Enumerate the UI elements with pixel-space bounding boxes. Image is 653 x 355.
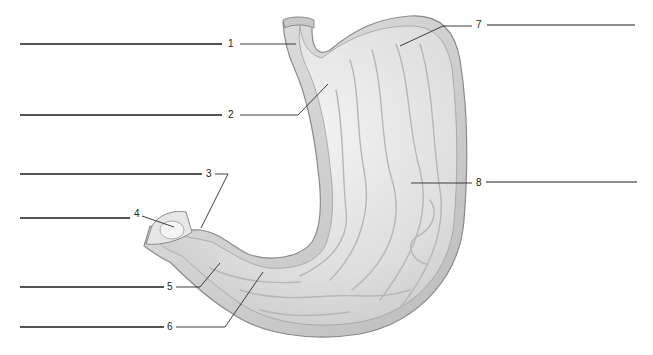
label-number-6: 6 (167, 321, 173, 332)
label-number-1: 1 (228, 38, 234, 49)
label-number-2: 2 (228, 109, 234, 120)
leader-line-3 (201, 174, 228, 228)
label-number-8: 8 (476, 177, 482, 188)
label-1: 1 (20, 38, 296, 49)
label-number-4: 4 (134, 208, 140, 219)
label-number-5: 5 (167, 281, 173, 292)
label-2: 2 (20, 84, 328, 120)
label-number-7: 7 (476, 19, 482, 30)
label-4: 4 (20, 208, 174, 227)
label-number-3: 3 (206, 168, 212, 179)
stomach-diagram: 1 2 3 4 5 6 7 8 (0, 0, 653, 355)
stomach-illustration (144, 16, 467, 337)
label-3: 3 (20, 168, 228, 228)
